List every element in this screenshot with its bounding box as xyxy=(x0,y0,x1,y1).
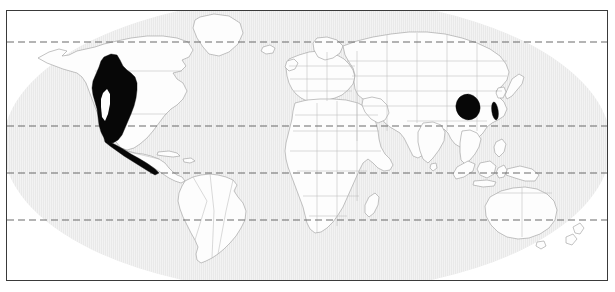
landmass-sulawesi xyxy=(496,165,507,178)
landmass-new-zealand-south xyxy=(566,234,577,245)
landmass-philippines xyxy=(494,139,506,157)
landmass-australia xyxy=(485,187,557,239)
landmass-borneo xyxy=(477,161,496,178)
landmass-sri-lanka xyxy=(430,163,437,171)
landmass-new-guinea xyxy=(506,166,539,181)
landmass-cuba xyxy=(157,151,180,157)
landmass-iceland xyxy=(261,45,275,54)
landmass-india xyxy=(418,122,445,163)
map-frame xyxy=(6,10,608,281)
landmass-sumatra xyxy=(453,161,475,179)
landmass-java xyxy=(473,180,496,187)
landmass-new-zealand xyxy=(573,223,584,234)
landmass-europe xyxy=(286,51,355,102)
landmass-korea xyxy=(496,87,506,98)
world-map-svg xyxy=(7,11,608,281)
distribution-map-figure xyxy=(0,0,615,292)
landmass-madagascar xyxy=(365,193,379,217)
landmass-hispaniola xyxy=(183,158,195,163)
landmass-indochina xyxy=(460,130,481,164)
landmass-tasmania xyxy=(536,241,546,249)
landmass-south-america xyxy=(178,174,246,263)
landmass-greenland xyxy=(193,14,243,56)
